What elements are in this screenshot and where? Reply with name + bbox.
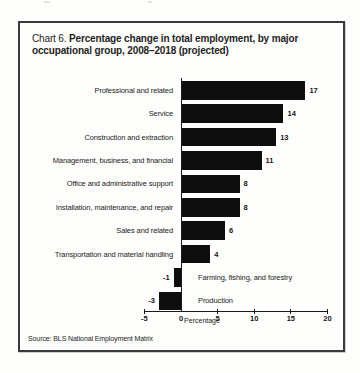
- bar-production: [159, 292, 181, 311]
- bar-farming-fishing-and-forestry: [174, 268, 181, 287]
- x-tick-label-10: 10: [243, 314, 265, 323]
- bar-sales-and-related: [181, 221, 225, 240]
- zero-baseline: [181, 78, 182, 312]
- value-label-transportation-and-material-handling: 4: [214, 250, 218, 259]
- x-tick-label-15: 15: [280, 314, 302, 323]
- scan-artifact: [44, 1, 50, 3]
- bar-installation-maintenance-and-repair: [181, 198, 240, 217]
- bar-service: [181, 104, 283, 123]
- x-axis-line: [144, 311, 327, 312]
- bar-transportation-and-material-handling: [181, 245, 210, 264]
- category-label-transportation-and-material-handling: Transportation and material handling: [20, 250, 173, 259]
- chart-title-line2: occupational group, 2008–2018 (projected…: [32, 45, 332, 57]
- value-label-construction-and-extraction: 13: [280, 133, 288, 142]
- page-background: Chart 6. Percentage change in total empl…: [0, 0, 360, 373]
- value-label-farming-fishing-and-forestry: -1: [156, 273, 170, 282]
- chart-title-text-1: Percentage change in total employment, b…: [69, 33, 298, 44]
- value-label-production: -3: [141, 296, 155, 305]
- chart-title: Chart 6. Percentage change in total empl…: [32, 33, 332, 56]
- x-tick-label--5: -5: [133, 314, 155, 323]
- chart-title-line1: Chart 6. Percentage change in total empl…: [32, 33, 332, 45]
- category-label-office-and-administrative-support: Office and administrative support: [20, 179, 173, 188]
- value-label-installation-maintenance-and-repair: 8: [244, 203, 248, 212]
- bar-office-and-administrative-support: [181, 175, 240, 194]
- scan-artifact: [148, 1, 152, 3]
- category-label-sales-and-related: Sales and related: [20, 226, 173, 235]
- bar-construction-and-extraction: [181, 128, 276, 147]
- value-label-professional-and-related: 17: [309, 86, 317, 95]
- category-label-management-business-and-financial: Management, business, and financial: [20, 156, 173, 165]
- category-label-farming-fishing-and-forestry: Farming, fishing, and forestry: [198, 273, 338, 282]
- category-label-production: Production: [198, 296, 338, 305]
- x-axis-label: Percentage: [162, 317, 242, 325]
- chart-number: Chart 6.: [32, 33, 66, 44]
- value-label-sales-and-related: 6: [229, 226, 233, 235]
- value-label-management-business-and-financial: 11: [266, 156, 274, 165]
- bar-professional-and-related: [181, 81, 305, 100]
- source-note: Source: BLS National Employment Matrix: [28, 335, 153, 343]
- category-label-service: Service: [20, 109, 173, 118]
- value-label-office-and-administrative-support: 8: [244, 179, 248, 188]
- x-tick-label-20: 20: [316, 314, 338, 323]
- bar-management-business-and-financial: [181, 151, 262, 170]
- category-label-professional-and-related: Professional and related: [20, 86, 173, 95]
- value-label-service: 14: [287, 109, 295, 118]
- category-label-construction-and-extraction: Construction and extraction: [20, 133, 173, 142]
- category-label-installation-maintenance-and-repair: Installation, maintenance, and repair: [20, 203, 173, 212]
